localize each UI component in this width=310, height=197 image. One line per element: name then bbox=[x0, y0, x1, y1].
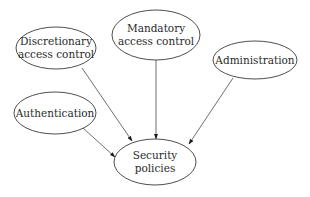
node-security-policies: Security policies bbox=[114, 139, 196, 185]
node-label: Authentication bbox=[15, 107, 95, 119]
node-label-line-1: Mandatory bbox=[127, 22, 185, 34]
node-discretionary-access-control: Discretionary access control bbox=[16, 27, 96, 69]
node-administration: Administration bbox=[213, 41, 297, 79]
node-label-line-2: access control bbox=[18, 48, 95, 60]
edge-administration-to-security-policies bbox=[189, 78, 233, 144]
edge-authentication-to-security-policies bbox=[83, 128, 115, 157]
security-policies-diagram: Discretionary access control Mandatory a… bbox=[0, 0, 310, 197]
node-label: Administration bbox=[214, 54, 295, 66]
node-mandatory-access-control: Mandatory access control bbox=[112, 10, 200, 60]
node-authentication: Authentication bbox=[14, 92, 96, 134]
node-label-line-2: policies bbox=[135, 162, 176, 174]
node-label-line-1: Discretionary bbox=[20, 35, 92, 47]
node-label-line-2: access control bbox=[118, 35, 195, 47]
node-label-line-1: Security bbox=[133, 149, 178, 161]
